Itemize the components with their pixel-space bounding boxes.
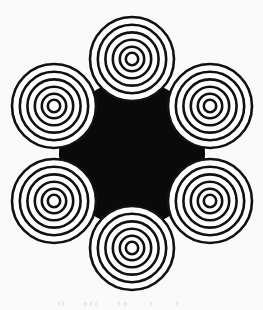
ring-disc-top bbox=[90, 17, 174, 101]
ring-disc-upper-left bbox=[12, 64, 96, 148]
concentric-ring-hexagon-graphic: Hexagonal arrangement of concentric ring… bbox=[0, 0, 263, 310]
ring-disc-lower-right bbox=[168, 159, 252, 243]
ring-disc-bottom bbox=[90, 206, 174, 290]
figure-canvas: Hexagonal arrangement of concentric ring… bbox=[0, 0, 263, 310]
ring-disc-upper-right bbox=[168, 64, 252, 148]
ring-disc-lower-left bbox=[12, 159, 96, 243]
